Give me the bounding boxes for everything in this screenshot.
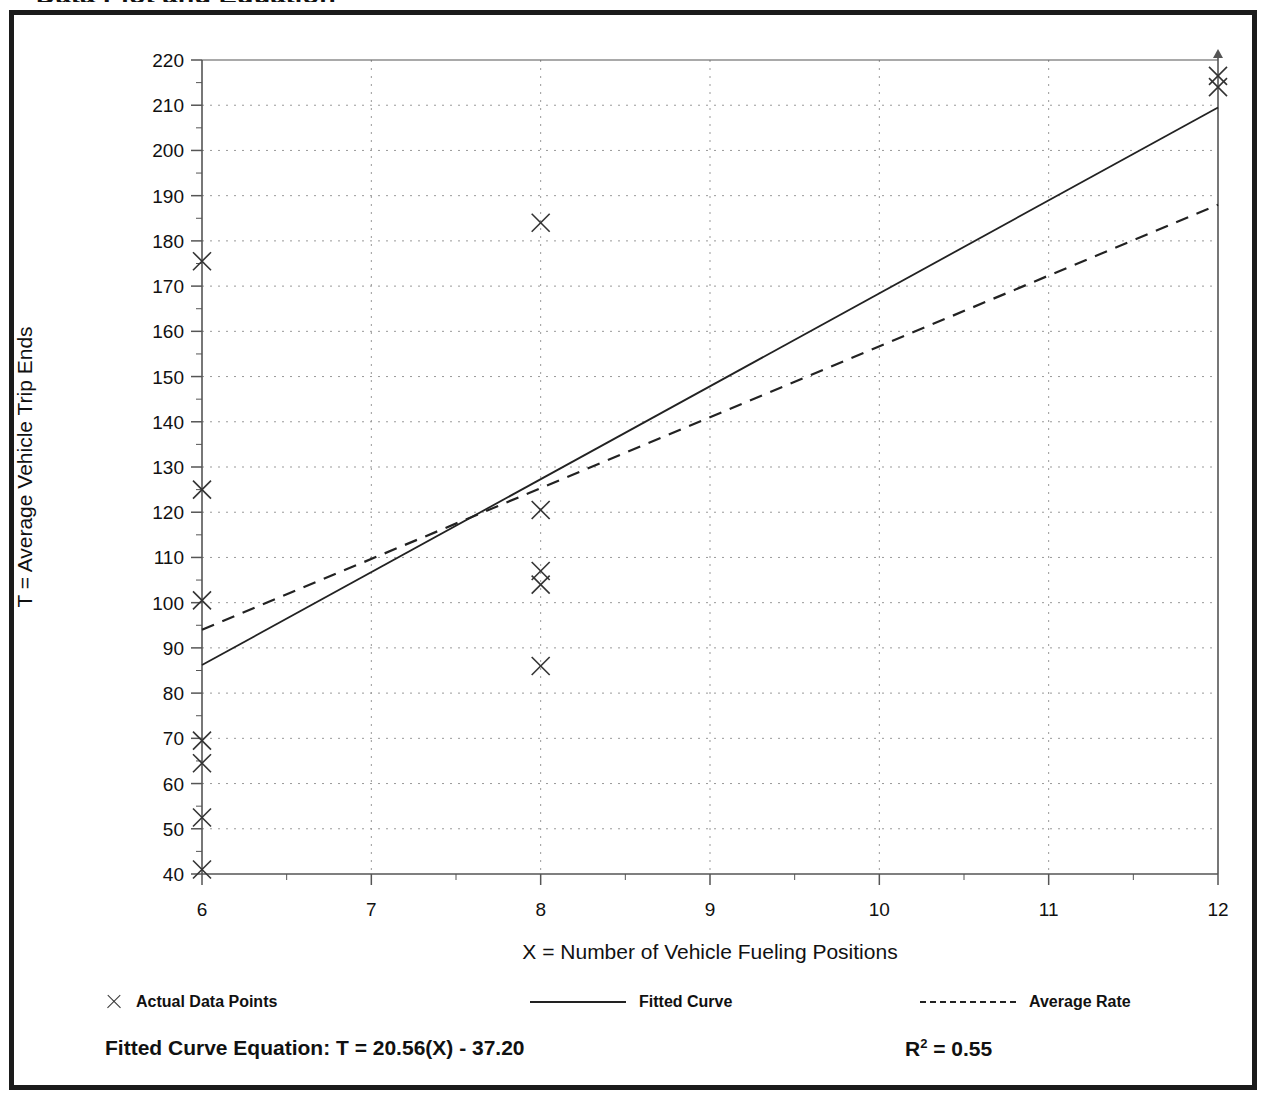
svg-text:10: 10 <box>869 899 890 920</box>
svg-text:40: 40 <box>163 864 184 885</box>
legend-label-0: Actual Data Points <box>136 993 277 1011</box>
svg-text:6: 6 <box>197 899 208 920</box>
svg-text:130: 130 <box>152 457 184 478</box>
fitted-curve-equation: Fitted Curve Equation: T = 20.56(X) - 37… <box>105 1036 525 1060</box>
svg-text:120: 120 <box>152 502 184 523</box>
axis-ticks <box>191 60 1218 885</box>
svg-text:80: 80 <box>163 683 184 704</box>
r-squared-number: = 0.55 <box>927 1037 992 1060</box>
svg-text:140: 140 <box>152 412 184 433</box>
data-point-marker <box>532 576 550 594</box>
svg-text:180: 180 <box>152 231 184 252</box>
svg-text:9: 9 <box>705 899 716 920</box>
chart-legend: Actual Data Points Fitted Curve Average … <box>60 989 1220 1015</box>
svg-text:7: 7 <box>366 899 377 920</box>
legend-item-average-rate: Average Rate <box>920 989 1131 1015</box>
x-axis-title: X = Number of Vehicle Fueling Positions <box>202 940 1218 964</box>
svg-text:11: 11 <box>1039 899 1059 920</box>
legend-item-actual-data-points: Actual Data Points <box>105 989 277 1015</box>
svg-text:8: 8 <box>535 899 546 920</box>
svg-text:200: 200 <box>152 140 184 161</box>
svg-text:210: 210 <box>152 95 184 116</box>
scatter-plot: 4050607080901001101201301401501601701801… <box>0 0 1269 1104</box>
svg-text:220: 220 <box>152 50 184 71</box>
svg-text:60: 60 <box>163 774 184 795</box>
svg-text:190: 190 <box>152 186 184 207</box>
svg-text:110: 110 <box>154 547 184 568</box>
r-squared-prefix: R <box>905 1037 920 1060</box>
svg-text:160: 160 <box>152 321 184 342</box>
cross-marker-icon <box>105 993 123 1011</box>
legend-item-fitted-curve: Fitted Curve <box>530 989 732 1015</box>
dashed-line-icon <box>920 1001 1016 1003</box>
y-axis-title: T = Average Vehicle Trip Ends <box>13 257 37 677</box>
r-squared-value: R2 = 0.55 <box>905 1036 992 1061</box>
svg-text:150: 150 <box>152 367 184 388</box>
axis-tick-labels: 4050607080901001101201301401501601701801… <box>152 50 1228 920</box>
chart-area: 4050607080901001101201301401501601701801… <box>0 0 1269 1104</box>
axis-lines <box>202 49 1223 874</box>
grid-lines <box>202 60 1218 874</box>
legend-label-2: Average Rate <box>1029 993 1131 1011</box>
svg-text:12: 12 <box>1207 899 1228 920</box>
svg-text:50: 50 <box>163 819 184 840</box>
svg-text:100: 100 <box>152 593 184 614</box>
legend-label-1: Fitted Curve <box>639 993 732 1011</box>
solid-line-icon <box>530 1001 626 1003</box>
svg-text:90: 90 <box>163 638 184 659</box>
svg-text:170: 170 <box>152 276 184 297</box>
equation-row: Fitted Curve Equation: T = 20.56(X) - 37… <box>60 1036 1220 1070</box>
data-point-marker <box>532 657 550 675</box>
svg-text:70: 70 <box>163 728 184 749</box>
